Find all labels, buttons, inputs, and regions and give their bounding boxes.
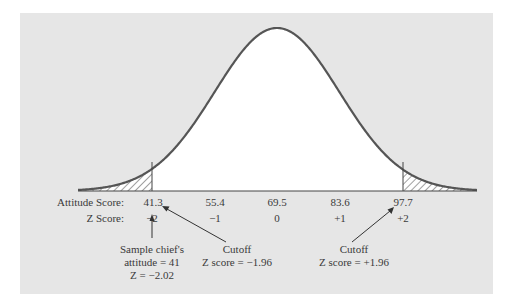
z-tick: 0 xyxy=(274,212,280,224)
sample-annotation-line1: Sample chief's xyxy=(120,243,184,255)
sample-annotation-line2: attitude = 41 xyxy=(124,256,180,268)
right-cutoff-annotation-line2: Z score = +1.96 xyxy=(319,256,389,268)
z-tick: +2 xyxy=(397,212,409,224)
attitude-tick: 83.6 xyxy=(330,196,349,208)
left-rejection-region xyxy=(78,169,152,191)
left-cutoff-annotation-line2: Z score = −1.96 xyxy=(202,256,272,268)
attitude-tick: 41.3 xyxy=(143,196,162,208)
left-cutoff-annotation-line1: Cutoff xyxy=(223,243,252,255)
attitude-tick: 97.7 xyxy=(393,196,412,208)
z-tick: −1 xyxy=(209,212,221,224)
acceptance-region xyxy=(152,28,403,191)
right-cutoff-annotation-line1: Cutoff xyxy=(340,243,369,255)
z-tick: −2 xyxy=(146,212,158,224)
z-tick: +1 xyxy=(334,212,346,224)
sample-annotation-line3: Z = −2.02 xyxy=(130,269,174,281)
attitude-tick: 55.4 xyxy=(205,196,224,208)
attitude-tick: 69.5 xyxy=(267,196,286,208)
z-score-label: Z Score: xyxy=(86,212,124,224)
right-cutoff-arrow xyxy=(352,211,390,242)
attitude-score-label: Attitude Score: xyxy=(57,196,124,208)
right-rejection-region xyxy=(403,170,477,191)
